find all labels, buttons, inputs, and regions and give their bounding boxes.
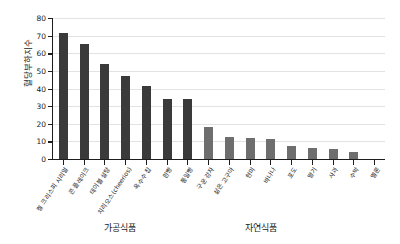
x-label-slot: 딸기 xyxy=(302,165,323,217)
x-tick-mark xyxy=(146,160,147,165)
x-label-slot: 통밀빵 xyxy=(178,165,199,217)
bar xyxy=(59,33,68,159)
y-tick-mark xyxy=(48,159,53,160)
x-tick-label: 통밀빵 xyxy=(178,165,196,185)
y-tick-mark xyxy=(48,106,53,107)
x-label-slot: 흰빵 xyxy=(157,165,178,217)
x-tick-label: 딸기 xyxy=(306,165,320,180)
bar xyxy=(183,99,192,159)
x-tick-label: 옥수수 칩 xyxy=(132,165,154,192)
x-tick-label: 바나나 xyxy=(261,165,279,185)
x-tick-mark xyxy=(229,160,230,165)
y-tick-mark xyxy=(48,71,53,72)
bar-slot xyxy=(115,18,136,159)
bar xyxy=(329,149,338,159)
bar-slot xyxy=(157,18,178,159)
bar xyxy=(163,99,172,159)
x-label-slot: 포도 xyxy=(281,165,302,217)
x-label-slot: 옥수수 칩 xyxy=(136,165,157,217)
x-tick-label: 켈 크리스피 시리얼 xyxy=(34,165,71,213)
y-tick-mark xyxy=(48,36,53,37)
x-label-slot: 바나나 xyxy=(261,165,282,217)
y-tick-mark xyxy=(48,141,53,142)
bar xyxy=(142,86,151,159)
bar-slot xyxy=(281,18,302,159)
bar xyxy=(100,64,109,159)
y-axis-title: 혈당부하지수 xyxy=(21,18,33,108)
bar xyxy=(204,127,213,159)
group-label-processed: 가공식품 xyxy=(104,221,136,234)
x-axis-labels: 켈 크리스피 시리얼콘 플레이크테이블 설탕치리오스(cheerios)옥수수 … xyxy=(53,165,385,217)
bar xyxy=(80,44,89,159)
bar-series xyxy=(53,18,385,159)
x-tick-label: 수박 xyxy=(347,165,361,180)
bar-slot xyxy=(219,18,240,159)
x-tick-mark xyxy=(312,160,313,165)
bar-slot xyxy=(136,18,157,159)
y-tick-label: 70 xyxy=(36,31,46,40)
bar-slot xyxy=(198,18,219,159)
y-tick-label: 80 xyxy=(36,14,46,23)
bar xyxy=(287,146,296,159)
bar xyxy=(225,137,234,159)
y-tick-label: 50 xyxy=(36,66,46,75)
bar xyxy=(308,148,317,159)
y-tick-mark xyxy=(48,124,53,125)
y-tick-mark xyxy=(48,18,53,19)
x-tick-mark xyxy=(63,160,64,165)
plot-area: 01020304050607080 xyxy=(52,18,385,160)
x-tick-label: 멜론 xyxy=(368,165,382,180)
x-tick-label: 흰빵 xyxy=(160,165,174,180)
y-tick-label: 20 xyxy=(36,119,46,128)
bar xyxy=(349,152,358,159)
x-label-slot: 현미 xyxy=(240,165,261,217)
x-tick-label: 현미 xyxy=(243,165,257,180)
bar xyxy=(266,139,275,159)
y-tick-label: 40 xyxy=(36,84,46,93)
y-tick-mark xyxy=(48,89,53,90)
bar-slot xyxy=(323,18,344,159)
bar xyxy=(121,76,130,159)
y-tick-label: 0 xyxy=(41,155,46,164)
x-label-slot: 삶은 고구마 xyxy=(219,165,240,217)
bar-slot xyxy=(364,18,385,159)
x-label-slot: 치리오스(cheerios) xyxy=(115,165,136,217)
y-tick-mark xyxy=(48,53,53,54)
bar-slot xyxy=(95,18,116,159)
glycemic-load-bar-chart: 혈당부하지수 01020304050607080 켈 크리스피 시리얼콘 플레이… xyxy=(0,0,400,244)
bar-slot xyxy=(261,18,282,159)
y-tick-label: 30 xyxy=(36,102,46,111)
x-label-slot: 사과 xyxy=(323,165,344,217)
bar-slot xyxy=(240,18,261,159)
bar-slot xyxy=(302,18,323,159)
x-tick-label: 포도 xyxy=(285,165,299,180)
bar xyxy=(246,138,255,159)
y-tick-label: 10 xyxy=(36,137,46,146)
bar-slot xyxy=(178,18,199,159)
bar-slot xyxy=(344,18,365,159)
x-label-slot: 멜론 xyxy=(364,165,385,217)
bar-slot xyxy=(74,18,95,159)
group-label-natural: 자연식품 xyxy=(245,221,277,234)
x-tick-label: 사과 xyxy=(326,165,340,180)
x-label-slot: 수박 xyxy=(344,165,365,217)
y-tick-label: 60 xyxy=(36,49,46,58)
bar-slot xyxy=(53,18,74,159)
